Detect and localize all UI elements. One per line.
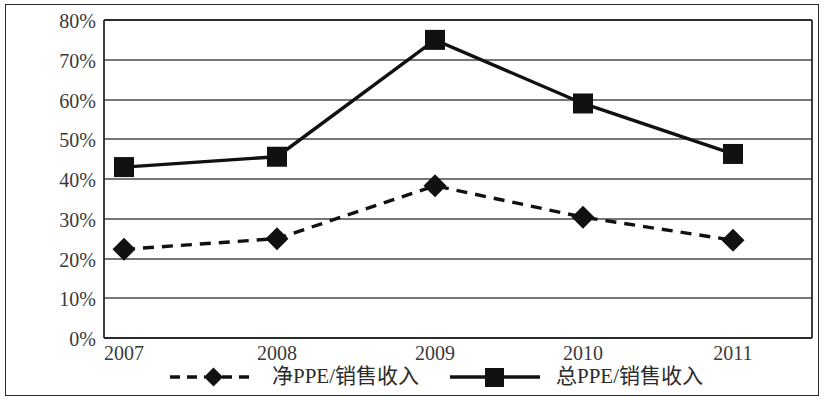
- diamond-marker[interactable]: [572, 206, 595, 229]
- y-tick-label: 60%: [59, 90, 96, 112]
- square-marker[interactable]: [573, 93, 593, 113]
- legend-entry-total-ppe[interactable]: 总PPE/销售收入: [450, 364, 703, 388]
- x-tick-label: 2010: [563, 342, 603, 364]
- y-tick-label: 70%: [59, 50, 96, 72]
- chart-figure: 80% 70% 60% 50% 40% 30% 20% 10% 0% 2007 …: [0, 0, 824, 400]
- y-tick-labels: 80% 70% 60% 50% 40% 30% 20% 10% 0%: [59, 10, 96, 350]
- y-tick-label: 20%: [59, 249, 96, 271]
- x-tick-labels: 2007 2008 2009 2010 2011: [104, 342, 753, 364]
- y-tick-label: 30%: [59, 209, 96, 231]
- x-tick-label: 2009: [415, 342, 455, 364]
- legend-entry-net-ppe[interactable]: 净PPE/销售收入: [170, 364, 419, 388]
- legend-label-net-ppe: 净PPE/销售收入: [272, 364, 419, 388]
- y-tick-label: 50%: [59, 129, 96, 151]
- y-tick-label: 10%: [59, 288, 96, 310]
- diamond-marker[interactable]: [722, 229, 745, 252]
- diamond-marker: [204, 368, 223, 387]
- line-chart: 80% 70% 60% 50% 40% 30% 20% 10% 0% 2007 …: [0, 0, 824, 400]
- y-tick-label: 40%: [59, 169, 96, 191]
- legend-label-total-ppe: 总PPE/销售收入: [556, 364, 703, 388]
- square-marker[interactable]: [114, 157, 134, 177]
- y-tick-label: 0%: [69, 328, 96, 350]
- series-line-1: [124, 186, 733, 250]
- square-marker[interactable]: [723, 144, 743, 164]
- gridlines: [104, 20, 812, 298]
- square-marker: [485, 368, 504, 387]
- x-tick-label: 2007: [104, 342, 144, 364]
- series-layer: [113, 30, 745, 261]
- x-tick-label: 2011: [713, 342, 752, 364]
- diamond-marker[interactable]: [113, 238, 136, 261]
- diamond-marker[interactable]: [424, 174, 447, 197]
- y-tick-label: 80%: [59, 10, 96, 32]
- square-marker[interactable]: [267, 147, 287, 167]
- chart-legend: 净PPE/销售收入 总PPE/销售收入: [170, 364, 703, 388]
- diamond-marker[interactable]: [266, 227, 289, 250]
- square-marker[interactable]: [425, 30, 445, 50]
- x-tick-label: 2008: [257, 342, 297, 364]
- series-line-2: [124, 40, 733, 167]
